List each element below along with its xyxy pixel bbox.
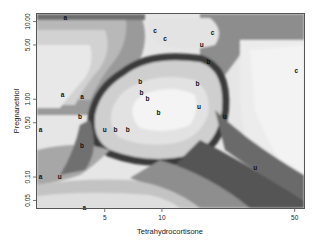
- data-point-c: c: [294, 67, 298, 74]
- data-point-c: c: [163, 35, 167, 42]
- x-axis: 51050: [103, 209, 299, 221]
- data-point-b: b: [78, 113, 82, 120]
- data-point-u: u: [197, 103, 201, 110]
- x-axis-label: Tetrahydrocortisone: [137, 227, 203, 236]
- data-point-a: a: [82, 204, 86, 211]
- x-tick-label: 5: [103, 214, 107, 221]
- x-tick-label: 50: [291, 214, 299, 221]
- data-point-b: b: [80, 142, 84, 149]
- data-point-b: b: [114, 126, 118, 133]
- data-point-b: b: [126, 126, 130, 133]
- data-point-u: u: [223, 113, 227, 120]
- data-point-a: a: [61, 91, 65, 98]
- y-tick-label: 5.00: [24, 38, 31, 51]
- data-point-a: a: [63, 14, 67, 21]
- data-point-b: b: [146, 95, 150, 102]
- data-point-a: a: [39, 126, 43, 133]
- data-point-b: b: [138, 78, 142, 85]
- y-tick-label: 1.00: [24, 93, 31, 106]
- data-point-a: a: [80, 93, 84, 100]
- data-point-c: c: [153, 27, 157, 34]
- y-tick-label: 0.10: [24, 170, 31, 183]
- y-tick-label: 0.05: [24, 194, 31, 207]
- heatmap-surface: [37, 14, 304, 208]
- y-tick-label: 0.50: [24, 116, 31, 129]
- data-point-u: u: [253, 164, 257, 171]
- data-point-c: c: [211, 29, 215, 36]
- data-point-u: u: [103, 126, 107, 133]
- data-point-a: a: [39, 173, 43, 180]
- data-point-u: u: [200, 41, 204, 48]
- y-axis-label: Pregnanetriol: [12, 88, 21, 133]
- data-point-b: b: [207, 58, 211, 65]
- data-point-u: u: [58, 173, 62, 180]
- data-point-b: b: [139, 89, 143, 96]
- x-tick-label: 10: [158, 214, 166, 221]
- y-axis: 0.050.100.501.005.0010.00: [24, 13, 36, 207]
- classification-plot: aaaaaabbbbbbbbbbccccuuuuuu 51050 0.050.1…: [0, 0, 321, 241]
- data-point-b: b: [157, 109, 161, 116]
- data-point-b: b: [196, 80, 200, 87]
- y-tick-label: 10.00: [24, 13, 31, 30]
